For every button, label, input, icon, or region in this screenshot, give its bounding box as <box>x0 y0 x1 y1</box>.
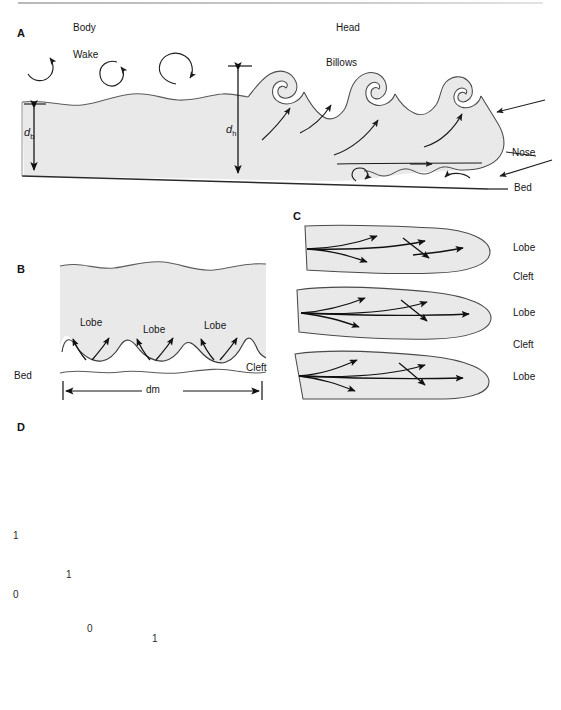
panel-a-label-billows: Billows <box>326 58 357 68</box>
panel-a-wake-eddies <box>28 53 192 86</box>
panel-c-label-cleft-2: Cleft <box>513 340 534 350</box>
depth-body-subscript: b <box>30 132 34 141</box>
panel-a-label-bed: Bed <box>514 183 532 193</box>
panel-b-label-bed: Bed <box>14 371 32 381</box>
panel-c-label-lobe-3: Lobe <box>513 372 535 382</box>
panel-a-ambient-inflow-arrows <box>497 100 552 176</box>
panel-d-tick-depth-1: 1 <box>66 570 72 580</box>
panel-b-label-lobe-1: Lobe <box>80 318 102 328</box>
panel-a-label-head: Head <box>336 23 360 33</box>
panel-c-label-cleft-1: Cleft <box>513 272 534 282</box>
panel-d-tick-vertical-1: 1 <box>13 531 19 541</box>
depth-head-subscript: h <box>232 129 236 138</box>
panel-b-current-fill <box>60 262 266 363</box>
panel-c-lobe-2 <box>297 287 491 339</box>
panel-d-tick-vertical-0: 0 <box>13 590 19 600</box>
panel-d-tick-horizontal-1: 1 <box>152 634 158 644</box>
panel-a-label-wake: Wake <box>73 50 98 60</box>
panel-a-label-nose: Nose <box>512 148 535 158</box>
panel-b-label-lobe-3: Lobe <box>204 321 226 331</box>
panel-a-label-depth-head: dh <box>226 124 236 138</box>
panel-b-label-dm: dm <box>146 385 160 395</box>
panel-c-label-lobe-1: Lobe <box>513 243 535 253</box>
panel-c-lobe-3 <box>295 351 489 399</box>
panel-a-label-body: Body <box>73 23 96 33</box>
panel-d-simulation <box>0 410 561 710</box>
panel-b-label-cleft: Cleft <box>246 363 267 373</box>
panel-d-tick-horizontal-0: 0 <box>87 624 93 634</box>
figure-canvas: A <box>0 0 561 710</box>
panel-b-dm-dimension <box>63 381 262 400</box>
panel-b-bed-surface <box>60 369 266 373</box>
panel-a-label-depth-body: db <box>24 127 34 141</box>
panel-c-label-lobe-2: Lobe <box>513 308 535 318</box>
panel-c-lobe-1 <box>305 225 490 273</box>
panel-b-label-lobe-2: Lobe <box>143 325 165 335</box>
